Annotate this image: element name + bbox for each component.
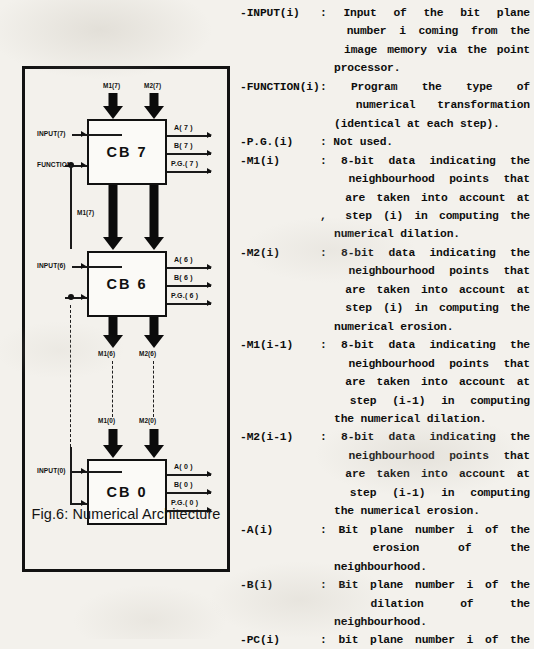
scan-artifact-comma: ,	[320, 207, 334, 225]
glossary-word: neighbourhood	[349, 262, 435, 280]
glossary-word: transformation	[437, 96, 530, 114]
glossary-word: of	[517, 78, 530, 96]
glossary-line: erosionofthe	[320, 539, 530, 557]
arrowhead-b7	[207, 150, 212, 156]
glossary-word: in	[441, 484, 454, 502]
glossary-word: the	[510, 576, 530, 594]
wire-out-a6	[167, 267, 211, 269]
glossary-word: image	[344, 41, 377, 59]
glossary-line: processor.	[320, 59, 530, 77]
glossary-word: the	[467, 41, 487, 59]
glossary-colon: :	[320, 152, 327, 170]
glossary-word: that	[503, 170, 530, 188]
glossary-line: : Inputofthebitplane	[320, 4, 530, 22]
glossary-line: neighbourhood.	[320, 558, 530, 576]
bus-label-m2-0: M2(0)	[139, 418, 156, 424]
bus-label-m1-7-top: M1(7)	[103, 83, 120, 89]
glossary-entry: -PC(i): bitplanenumberiofthe	[240, 631, 530, 649]
glossary-word: plane	[370, 576, 403, 594]
output-label-a0: A( 0 )	[174, 463, 193, 470]
bus-arrow-m1-7-in	[102, 93, 123, 119]
wire-out-pg7	[167, 171, 211, 173]
bus-arrow-m2-7-in	[143, 93, 164, 119]
glossary-colon: :	[320, 244, 327, 262]
dashed-bus-function	[70, 305, 71, 447]
glossary-word: number	[415, 631, 455, 649]
glossary-word: plane	[497, 4, 530, 22]
output-label-b6: B( 6 )	[174, 274, 193, 281]
glossary-line: : bitplanenumberiofthe	[320, 631, 530, 649]
glossary-line: (identical at each step).	[320, 115, 530, 133]
wire-out-pg6	[167, 303, 211, 305]
glossary-word: at	[517, 465, 530, 483]
output-label-b7: B( 7 )	[174, 142, 193, 149]
glossary-line: aretakenintoaccountat	[320, 465, 530, 483]
glossary-line: neighbourhoodpointsthat	[320, 447, 530, 465]
glossary-line: : Not used.	[320, 133, 530, 151]
glossary-word: point	[497, 41, 530, 59]
arrowhead-input7	[81, 131, 86, 137]
glossary-definition: : bitplanenumberiofthe	[320, 631, 530, 649]
glossary-word: numerical	[356, 96, 416, 114]
glossary-term: -PC(i)	[240, 631, 320, 649]
glossary-word: are	[345, 189, 365, 207]
glossary-word: the	[510, 299, 530, 317]
arrowhead-function7	[81, 162, 86, 168]
glossary-word: the	[510, 207, 530, 225]
glossary-word: neighbourhood	[349, 170, 435, 188]
glossary-entry: -M2(i): 8-bitdataindicatingtheneighbourh…	[240, 244, 530, 336]
arrowhead-input0	[81, 468, 86, 474]
glossary-word: account	[459, 465, 505, 483]
glossary-word: the	[422, 78, 442, 96]
glossary-line: neighbourhood.	[320, 613, 530, 631]
glossary-line: the numerical erosion.	[320, 502, 530, 520]
glossary-word: from	[471, 22, 498, 40]
glossary-colon: :	[320, 336, 327, 354]
glossary-word: that	[503, 262, 530, 280]
glossary-word: (i-1)	[392, 392, 425, 410]
input-label-6: INPUT(6)	[37, 263, 66, 270]
glossary-word: into	[421, 373, 448, 391]
glossary-word: (i-1)	[392, 484, 425, 502]
glossary-entry: -INPUT(i): Inputofthebitplanenumbericomi…	[240, 4, 530, 78]
glossary-word: (i)	[383, 207, 403, 225]
arrowhead-pg6	[207, 300, 212, 306]
glossary-line: : Bitplanenumberiofthe	[320, 521, 530, 539]
glossary-indent	[320, 392, 334, 410]
glossary-line: numerical erosion.	[320, 318, 530, 336]
glossary-word: at	[517, 281, 530, 299]
glossary-word: computing	[470, 392, 530, 410]
dashed-bus-m1	[112, 361, 113, 417]
glossary-word: i	[399, 22, 406, 40]
glossary-definition: : 8-bitdataindicatingtheneighbourhoodpoi…	[320, 336, 530, 428]
glossary-indent	[320, 355, 334, 373]
block-cb6-label: CB 6	[106, 276, 147, 292]
output-label-pg0: P.G.( 0 )	[171, 499, 198, 506]
glossary-word: the	[510, 244, 530, 262]
glossary-indent	[320, 465, 334, 483]
glossary-colon: :	[320, 78, 327, 96]
glossary-line: numerical dilation.	[320, 225, 530, 243]
wire-function-bus-upper	[70, 165, 72, 249]
glossary-indent	[320, 595, 334, 613]
glossary-line: aretakenintoaccountat	[320, 189, 530, 207]
glossary-word: taken	[377, 189, 410, 207]
glossary-word: neighbourhood	[349, 355, 435, 373]
glossary-word: in	[414, 299, 427, 317]
glossary-word: taken	[377, 281, 410, 299]
glossary-indent	[320, 484, 334, 502]
glossary-word: the	[510, 595, 530, 613]
wire-out-a7	[167, 135, 211, 137]
glossary-word: account	[459, 281, 505, 299]
glossary-word: are	[345, 465, 365, 483]
arrowhead-input6	[81, 263, 86, 269]
glossary-indent	[320, 262, 334, 280]
glossary-line: numericaltransformation	[320, 96, 530, 114]
glossary-word: in	[414, 207, 427, 225]
wire-out-b6	[167, 285, 211, 287]
glossary-word: account	[459, 373, 505, 391]
glossary-colon: :	[320, 631, 327, 649]
glossary-colon: :	[320, 4, 327, 22]
block-cb7: CB 7	[87, 119, 167, 185]
wire-out-b7	[167, 153, 211, 155]
